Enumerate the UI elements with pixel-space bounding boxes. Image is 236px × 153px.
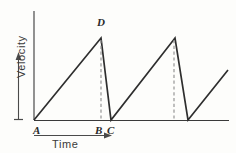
point-label-b: B: [95, 125, 102, 136]
velocity-time-chart: Velocity Time A B C D: [0, 0, 236, 153]
point-label-a: A: [33, 125, 40, 136]
point-label-c: C: [107, 125, 114, 136]
velocity-curve: [34, 38, 228, 120]
y-axis-label: Velocity: [16, 35, 27, 78]
x-axis-label: Time: [52, 139, 78, 150]
point-label-d: D: [97, 17, 105, 28]
